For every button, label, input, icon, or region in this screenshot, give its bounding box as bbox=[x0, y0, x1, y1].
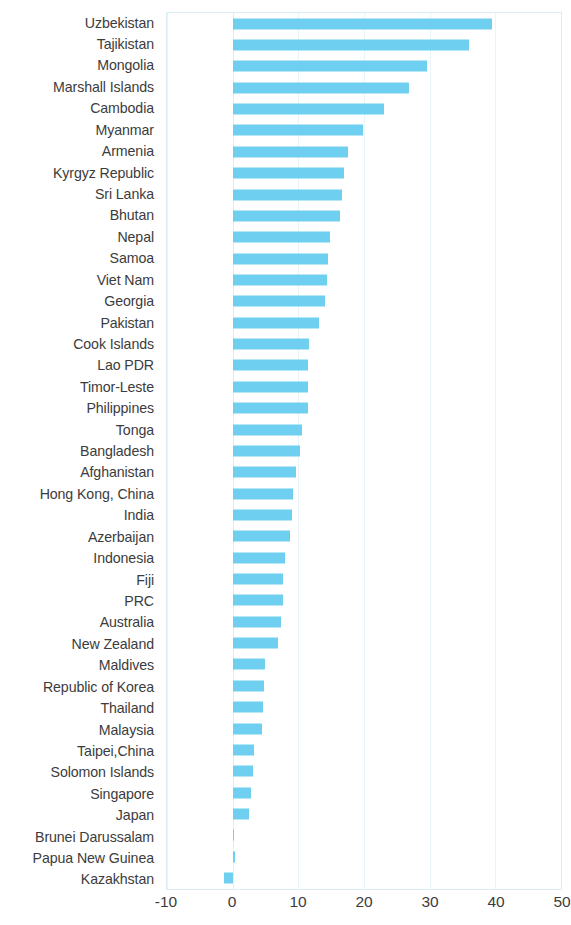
bar[interactable] bbox=[233, 595, 283, 606]
bar[interactable] bbox=[233, 146, 349, 157]
category-label: Taipei,China bbox=[0, 740, 160, 761]
category-label: Azerbaijan bbox=[0, 526, 160, 547]
bar-row bbox=[167, 611, 561, 632]
bar[interactable] bbox=[233, 232, 331, 243]
bar-row bbox=[167, 504, 561, 525]
bar[interactable] bbox=[233, 168, 344, 179]
bar-row bbox=[167, 269, 561, 290]
bar-row bbox=[167, 120, 561, 141]
x-tick-label: 10 bbox=[289, 893, 306, 911]
bar-row bbox=[167, 291, 561, 312]
bar[interactable] bbox=[233, 296, 325, 307]
bar[interactable] bbox=[233, 830, 234, 841]
bar[interactable] bbox=[233, 574, 284, 585]
bar-row bbox=[167, 397, 561, 418]
bar[interactable] bbox=[233, 18, 492, 29]
bar-row bbox=[167, 56, 561, 77]
category-label: Armenia bbox=[0, 141, 160, 162]
bar[interactable] bbox=[233, 638, 278, 649]
bar[interactable] bbox=[233, 317, 319, 328]
bar-row bbox=[167, 547, 561, 568]
bar[interactable] bbox=[233, 381, 308, 392]
bar[interactable] bbox=[233, 616, 282, 627]
bar-row bbox=[167, 419, 561, 440]
category-label: Myanmar bbox=[0, 119, 160, 140]
bar-row bbox=[167, 697, 561, 718]
bar-row bbox=[167, 141, 561, 162]
bar-row bbox=[167, 739, 561, 760]
bar[interactable] bbox=[233, 509, 292, 520]
bar[interactable] bbox=[233, 339, 309, 350]
bar[interactable] bbox=[233, 467, 296, 478]
category-label: Maldives bbox=[0, 655, 160, 676]
bar[interactable] bbox=[233, 189, 343, 200]
bar-row bbox=[167, 462, 561, 483]
bar[interactable] bbox=[233, 104, 384, 115]
bar-row bbox=[167, 333, 561, 354]
bar[interactable] bbox=[233, 403, 308, 414]
bar-row bbox=[167, 718, 561, 739]
bar[interactable] bbox=[233, 808, 249, 819]
category-label: Bangladesh bbox=[0, 440, 160, 461]
category-label: Kazakhstan bbox=[0, 869, 160, 890]
x-tick-label: 20 bbox=[355, 893, 372, 911]
bar[interactable] bbox=[233, 552, 285, 563]
bar[interactable] bbox=[233, 680, 265, 691]
bar[interactable] bbox=[224, 873, 233, 884]
category-label: Bhutan bbox=[0, 205, 160, 226]
category-label: Lao PDR bbox=[0, 355, 160, 376]
bar-row bbox=[167, 803, 561, 824]
bar[interactable] bbox=[233, 659, 265, 670]
gridline bbox=[561, 13, 562, 889]
bar[interactable] bbox=[233, 723, 262, 734]
bar-row bbox=[167, 825, 561, 846]
category-label: Sri Lanka bbox=[0, 183, 160, 204]
bar[interactable] bbox=[233, 210, 341, 221]
category-label: Afghanistan bbox=[0, 462, 160, 483]
category-label: Australia bbox=[0, 612, 160, 633]
bar[interactable] bbox=[233, 766, 253, 777]
category-label: Samoa bbox=[0, 248, 160, 269]
category-label: Papua New Guinea bbox=[0, 847, 160, 868]
x-tick-label: -10 bbox=[155, 893, 177, 911]
bar[interactable] bbox=[233, 531, 290, 542]
category-label: Tonga bbox=[0, 419, 160, 440]
category-label: Hong Kong, China bbox=[0, 483, 160, 504]
bar[interactable] bbox=[233, 702, 263, 713]
bar[interactable] bbox=[233, 445, 301, 456]
bar[interactable] bbox=[233, 488, 293, 499]
bar[interactable] bbox=[233, 82, 410, 93]
bar[interactable] bbox=[233, 744, 255, 755]
bar[interactable] bbox=[233, 40, 469, 51]
bar-row bbox=[167, 761, 561, 782]
bar[interactable] bbox=[233, 424, 303, 435]
category-label: Pakistan bbox=[0, 312, 160, 333]
bar[interactable] bbox=[233, 851, 235, 862]
bar-row bbox=[167, 590, 561, 611]
bar-row bbox=[167, 13, 561, 34]
category-label: Timor-Leste bbox=[0, 376, 160, 397]
category-label: Malaysia bbox=[0, 719, 160, 740]
x-tick-label: 0 bbox=[228, 893, 237, 911]
bar[interactable] bbox=[233, 787, 251, 798]
bar[interactable] bbox=[233, 360, 309, 371]
x-tick-label: 50 bbox=[553, 893, 570, 911]
category-label: Marshall Islands bbox=[0, 76, 160, 97]
plot-area bbox=[166, 12, 562, 890]
bar[interactable] bbox=[233, 253, 328, 264]
bar-row bbox=[167, 483, 561, 504]
category-label: Singapore bbox=[0, 783, 160, 804]
category-label: Republic of Korea bbox=[0, 676, 160, 697]
bar-row bbox=[167, 34, 561, 55]
bar-row bbox=[167, 205, 561, 226]
bar[interactable] bbox=[233, 274, 327, 285]
category-label: New Zealand bbox=[0, 633, 160, 654]
category-label: Cook Islands bbox=[0, 333, 160, 354]
bar-row bbox=[167, 376, 561, 397]
bar[interactable] bbox=[233, 61, 427, 72]
bar-row bbox=[167, 675, 561, 696]
bar-row bbox=[167, 846, 561, 867]
bar[interactable] bbox=[233, 125, 364, 136]
category-label: Philippines bbox=[0, 398, 160, 419]
